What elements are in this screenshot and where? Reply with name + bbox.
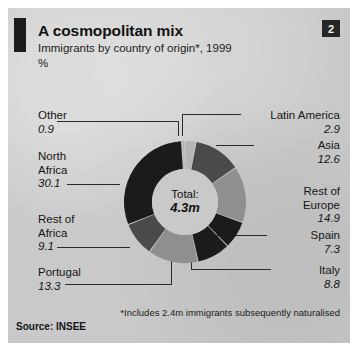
slice-label-rest-of-africa-value: 9.1 <box>38 240 74 254</box>
chart-subtitle: Immigrants by country of origin*, 1999 <box>38 42 232 54</box>
slice-label-asia-name: Asia <box>318 139 340 151</box>
slice-label-north-africa-value: 30.1 <box>38 177 67 191</box>
slice-label-rest-of-africa: Rest ofAfrica 9.1 <box>38 213 74 254</box>
slice-label-rest-of-africa-name: Rest ofAfrica <box>38 213 74 239</box>
slice-label-italy-name: Italy <box>319 264 340 276</box>
panel-number-badge: 2 <box>322 20 340 37</box>
chart-unit-label: % <box>38 57 48 69</box>
donut-chart <box>116 133 254 271</box>
donut-hole <box>152 169 218 235</box>
slice-label-north-africa-name: NorthAfrica <box>38 150 67 176</box>
slice-label-rest-of-europe-name: Rest ofEurope <box>303 185 340 211</box>
chart-title: A cosmopolitan mix <box>38 22 183 40</box>
slice-label-portugal-name: Portugal <box>38 266 81 278</box>
slice-label-latin-america-name: Latin America <box>270 109 340 121</box>
slice-label-asia: Asia 12.6 <box>318 139 340 166</box>
slice-label-rest-of-europe-value: 14.9 <box>303 212 340 226</box>
slice-label-other-value: 0.9 <box>38 123 67 137</box>
slice-label-italy: Italy 8.8 <box>319 264 340 291</box>
slice-label-italy-value: 8.8 <box>319 278 340 292</box>
slice-label-north-africa: NorthAfrica 30.1 <box>38 150 67 191</box>
chart-panel: 2 A cosmopolitan mix Immigrants by count… <box>8 8 350 343</box>
chart-footnote: *Includes 2.4m immigrants subsequently n… <box>120 307 340 318</box>
slice-label-latin-america-value: 2.9 <box>270 123 340 137</box>
slice-label-latin-america: Latin America 2.9 <box>270 109 340 136</box>
slice-label-other-name: Other <box>38 109 67 121</box>
slice-label-asia-value: 12.6 <box>318 153 340 167</box>
slice-label-rest-of-europe: Rest ofEurope 14.9 <box>303 185 340 226</box>
slice-label-other: Other 0.9 <box>38 109 67 136</box>
slice-label-portugal: Portugal 13.3 <box>38 266 81 293</box>
chart-source: Source: INSEE <box>16 321 86 332</box>
slice-label-spain: Spain 7.3 <box>311 229 340 256</box>
slice-label-portugal-value: 13.3 <box>38 280 81 294</box>
slice-label-spain-value: 7.3 <box>311 243 340 257</box>
title-accent-bar <box>14 18 26 52</box>
slice-label-spain-name: Spain <box>311 229 340 241</box>
